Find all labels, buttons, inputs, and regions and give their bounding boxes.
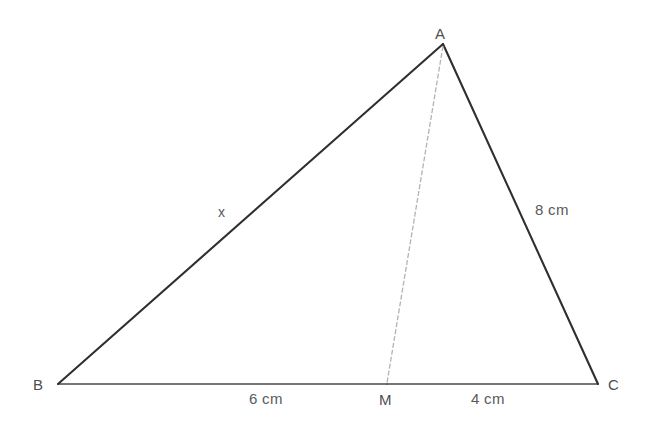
point-m-marker [386, 383, 388, 385]
segment-label-mc: 4 cm [471, 391, 505, 406]
diagram-canvas: A B C M x 6 cm 4 cm 8 cm [0, 0, 645, 425]
vertex-label-a: A [435, 26, 445, 41]
segment-ab [58, 44, 443, 384]
side-label-ab: x [218, 205, 225, 219]
point-label-m: M [379, 392, 392, 407]
vertex-label-b: B [33, 377, 43, 392]
segment-am-cevian [387, 46, 443, 383]
segment-ac [443, 44, 598, 384]
segment-label-bm: 6 cm [249, 391, 283, 406]
vertex-label-c: C [608, 377, 619, 392]
side-label-ac: 8 cm [535, 202, 569, 217]
